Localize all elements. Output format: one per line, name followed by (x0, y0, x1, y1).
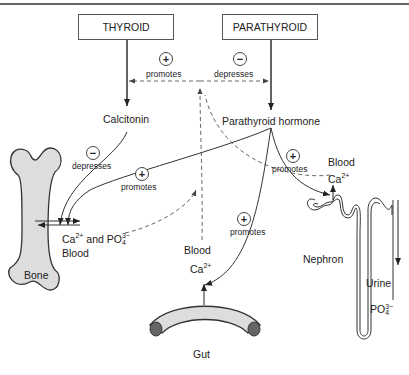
minus-icon: − (86, 146, 100, 160)
plus-icon: + (237, 212, 251, 226)
bone-ca-po4-label: Ca2+ and PO3−4 (62, 232, 130, 246)
pth-to-gut (205, 128, 271, 285)
minus-icon: − (233, 52, 247, 66)
pth-to-bone (68, 128, 271, 225)
bone-blood-label: Blood (62, 248, 89, 259)
depresses-label-parathyroid: depresses (214, 70, 253, 79)
parathyroid-label: PARATHYROID (233, 21, 307, 33)
pth-label: Parathyroid hormone (222, 116, 320, 127)
urine-po4-label: PO3−4 (370, 304, 393, 317)
promotes-label-thyroid: promotes (146, 70, 181, 79)
gut-label: Gut (193, 349, 210, 360)
calcitonin-label: Calcitonin (103, 114, 149, 125)
urine-label: Urine (366, 278, 391, 289)
promotes-label-nephron: promotes (272, 165, 307, 174)
gut-blood-label: Blood (184, 245, 211, 256)
nephron-shape (308, 195, 393, 339)
parathyroid-box: PARATHYROID (222, 14, 318, 40)
thyroid-box: THYROID (78, 14, 174, 40)
calcium-regulation-diagram (0, 0, 409, 375)
nephron-blood-label: Blood (328, 157, 355, 168)
plus-icon: + (135, 167, 149, 181)
gut-shape (150, 306, 260, 333)
gut-ca-label: Ca2+ (190, 262, 211, 274)
nephron-label: Nephron (303, 254, 343, 265)
plus-icon: + (159, 52, 173, 66)
nephron-blood-feedback (205, 95, 330, 176)
promotes-label-bone: promotes (121, 183, 156, 192)
depresses-label-bone: depresses (72, 162, 111, 171)
promotes-label-gut: promotes (230, 228, 265, 237)
gut-blood-feedback (200, 88, 202, 240)
thyroid-label: THYROID (102, 21, 149, 33)
pth-to-nephron (271, 128, 330, 195)
bone-label: Bone (24, 270, 49, 281)
plus-icon: + (286, 149, 300, 163)
nephron-ca-label: Ca2+ (328, 172, 349, 184)
bone-blood-feedback (125, 190, 196, 233)
